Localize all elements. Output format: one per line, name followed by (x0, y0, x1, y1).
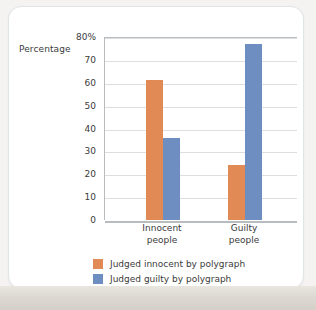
chart-card: Percentage 01020304050607080% Innocentpe… (8, 6, 304, 289)
y-tick-label-0: 0 (90, 215, 96, 225)
x-axis-category-labels: InnocentpeopleGuiltypeople (104, 223, 297, 257)
y-axis-title: Percentage (19, 44, 71, 54)
bar-orange-1 (228, 165, 245, 220)
y-tick-label-20: 20 (85, 169, 96, 179)
chart-page: Percentage 01020304050607080% Innocentpe… (0, 0, 316, 310)
plot-area (104, 37, 297, 220)
legend-item-1: Judged guilty by polygraph (93, 272, 293, 286)
y-tick-label-40: 40 (85, 124, 96, 134)
y-tick-label-70: 70 (85, 55, 96, 65)
legend-item-0: Judged innocent by polygraph (93, 257, 293, 271)
chart-legend: Judged innocent by polygraphJudged guilt… (93, 257, 293, 287)
x-label-1: Guiltypeople (229, 223, 260, 246)
x-label-0: Innocentpeople (142, 223, 181, 246)
x-label-line: people (142, 235, 181, 247)
bar-series-group (105, 38, 297, 220)
legend-swatch-orange (93, 259, 103, 269)
x-label-line: people (229, 235, 260, 247)
y-tick-label-50: 50 (85, 101, 96, 111)
x-label-line: Innocent (142, 223, 181, 235)
y-tick-label-10: 10 (85, 192, 96, 202)
legend-label: Judged guilty by polygraph (110, 274, 231, 284)
bar-blue-0 (163, 138, 180, 220)
x-label-line: Guilty (229, 223, 260, 235)
y-tick-label-30: 30 (85, 146, 96, 156)
y-axis-tick-labels: 01020304050607080% (64, 37, 100, 220)
bar-blue-1 (245, 44, 262, 220)
legend-label: Judged innocent by polygraph (110, 259, 245, 269)
legend-swatch-blue (93, 274, 103, 284)
grouped-bar-chart: Percentage 01020304050607080% Innocentpe… (9, 7, 305, 290)
y-tick-label-80: 80% (76, 32, 96, 42)
bar-orange-0 (146, 80, 163, 220)
y-tick-label-60: 60 (85, 78, 96, 88)
page-edge-strip (0, 286, 316, 310)
